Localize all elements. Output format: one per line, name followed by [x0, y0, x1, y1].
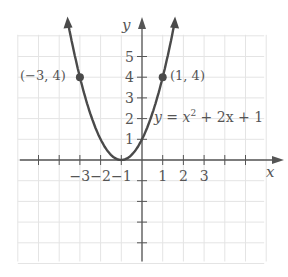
x-tick-label: −2 [90, 168, 111, 184]
data-point-marker [76, 73, 84, 81]
curve-arrow-left-icon [64, 16, 73, 28]
parabola-plot: −3−2−112312345 y x (−3, 4) (1, 4) y = x2… [0, 0, 288, 277]
y-axis-arrow-icon [138, 17, 146, 29]
x-axis-label: x [266, 163, 275, 181]
y-tick-label: 1 [125, 131, 134, 147]
point-label-left: (−3, 4) [20, 68, 66, 83]
y-tick-label: 5 [125, 49, 134, 65]
equation-suffix: + 2x + 1 [196, 109, 263, 125]
equation-label: y = x2 + 2x + 1 [153, 108, 263, 125]
point-label-right: (1, 4) [170, 68, 205, 83]
x-tick-label: 2 [179, 168, 188, 184]
x-tick-label: −3 [70, 168, 91, 184]
x-tick-label: 1 [158, 168, 167, 184]
labels: y x (−3, 4) (1, 4) y = x2 + 2x + 1 [20, 16, 275, 181]
y-tick-label: 4 [125, 69, 134, 85]
data-point-marker [159, 73, 167, 81]
x-tick-label: 3 [200, 168, 209, 184]
curve-arrow-right-icon [170, 16, 179, 28]
y-tick-label: 2 [125, 111, 134, 127]
y-axis-label: y [121, 16, 131, 34]
y-tick-label: 3 [125, 90, 134, 106]
x-tick-label: −1 [111, 168, 132, 184]
equation-prefix: y = x [153, 109, 191, 125]
